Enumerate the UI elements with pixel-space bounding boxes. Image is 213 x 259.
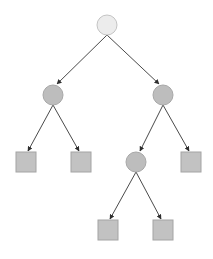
edge-root-n1 xyxy=(57,35,107,84)
edge-n1-l2 xyxy=(53,105,79,151)
leaf-node-l1 xyxy=(16,152,36,172)
root-node-root xyxy=(97,15,117,35)
leaf-node-l5 xyxy=(153,220,173,240)
leaf-node-l4 xyxy=(98,220,118,240)
tree-edges xyxy=(28,35,189,219)
edge-n3-l4 xyxy=(110,172,136,219)
edge-n2-l3 xyxy=(163,105,189,151)
leaf-node-l2 xyxy=(71,152,91,172)
internal-node-n1 xyxy=(43,85,63,105)
tree-nodes xyxy=(16,15,201,240)
edge-n1-l1 xyxy=(28,105,53,151)
internal-node-n2 xyxy=(153,85,173,105)
edge-n2-n3 xyxy=(140,105,163,151)
internal-node-n3 xyxy=(126,152,146,172)
leaf-node-l3 xyxy=(181,152,201,172)
edge-root-n2 xyxy=(107,35,159,84)
edge-n3-l5 xyxy=(136,172,161,219)
tree-diagram xyxy=(0,0,213,259)
